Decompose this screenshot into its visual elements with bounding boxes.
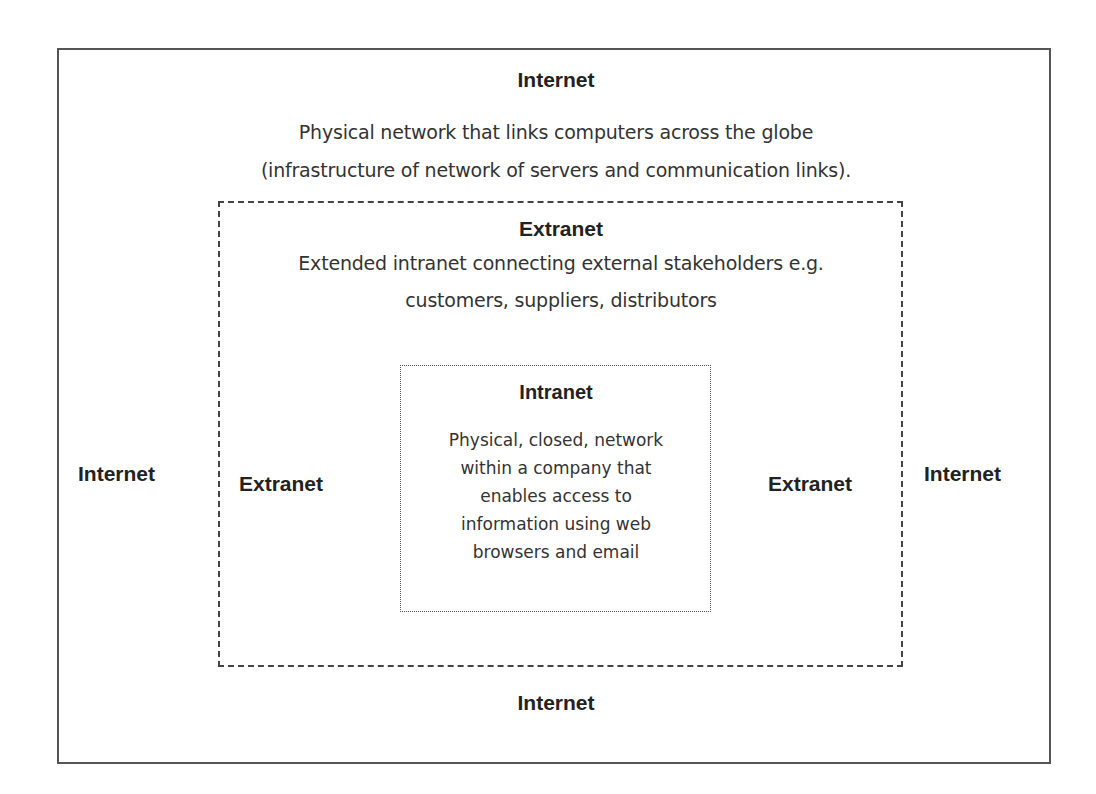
intranet-description-line: browsers and email xyxy=(400,538,712,566)
extranet-description-line-2: customers, suppliers, distributors xyxy=(405,285,716,315)
extranet-title-top: Extranet xyxy=(519,217,603,241)
intranet-title: Intranet xyxy=(519,381,592,404)
internet-label-left: Internet xyxy=(78,462,155,486)
intranet-description: Physical, closed, network within a compa… xyxy=(400,426,712,566)
extranet-description-line-1: Extended intranet connecting external st… xyxy=(298,248,823,278)
extranet-label-left: Extranet xyxy=(239,472,323,496)
extranet-label-right: Extranet xyxy=(768,472,852,496)
intranet-description-line: Physical, closed, network xyxy=(400,426,712,454)
intranet-description-line: information using web xyxy=(400,510,712,538)
intranet-description-line: enables access to xyxy=(400,482,712,510)
internet-description-line-2: (infrastructure of network of servers an… xyxy=(261,155,851,185)
intranet-description-line: within a company that xyxy=(400,454,712,482)
internet-description-line-1: Physical network that links computers ac… xyxy=(299,117,813,147)
internet-label-bottom: Internet xyxy=(517,691,594,715)
internet-label-right: Internet xyxy=(924,462,1001,486)
internet-title-top: Internet xyxy=(517,68,594,92)
